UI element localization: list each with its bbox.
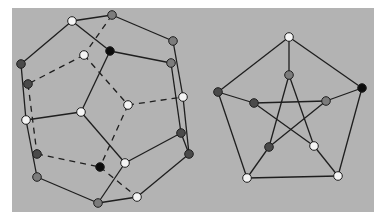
dodecahedron-node-F xyxy=(24,80,33,89)
dodecahedron-node-T xyxy=(133,193,142,202)
petersen-node-i3 xyxy=(310,142,319,151)
dodecahedron-node-P xyxy=(121,159,130,168)
dodecahedron-node-J xyxy=(124,101,133,110)
dodecahedron-node-O xyxy=(96,163,105,172)
petersen-node-o4 xyxy=(243,174,252,183)
petersen-node-o3 xyxy=(334,172,343,181)
dodecahedron-node-L xyxy=(22,116,31,125)
petersen-node-o5 xyxy=(214,88,223,97)
dodecahedron-node-C xyxy=(106,47,115,56)
graph-diagram-canvas xyxy=(0,0,381,222)
dodecahedron-node-R xyxy=(185,150,194,159)
dodecahedron-node-D xyxy=(17,60,26,69)
dodecahedron-node-B xyxy=(108,11,117,20)
dodecahedron-node-M xyxy=(33,150,42,159)
dodecahedron-node-G xyxy=(169,37,178,46)
dodecahedron-node-E xyxy=(80,51,89,60)
petersen-node-o2 xyxy=(358,84,367,93)
petersen-node-o1 xyxy=(285,33,294,42)
petersen-node-i5 xyxy=(250,99,259,108)
petersen-node-i1 xyxy=(285,71,294,80)
dodecahedron-node-I xyxy=(179,93,188,102)
dodecahedron-node-H xyxy=(167,59,176,68)
dodecahedron-node-K xyxy=(77,108,86,117)
gray-panel-background xyxy=(12,8,374,212)
petersen-node-i4 xyxy=(265,143,274,152)
dodecahedron-node-N xyxy=(33,173,42,182)
dodecahedron-node-Q xyxy=(177,129,186,138)
dodecahedron-node-A xyxy=(68,17,77,26)
petersen-node-i2 xyxy=(322,97,331,106)
dodecahedron-node-S xyxy=(94,199,103,208)
